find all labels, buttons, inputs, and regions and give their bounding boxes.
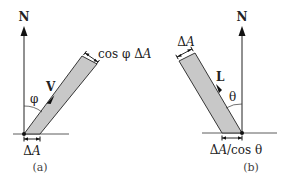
caption-b: (b) [243, 161, 259, 174]
base-width-marker-b [222, 136, 242, 141]
base-width-label-a: ΔA [23, 144, 41, 158]
angle-arc-a [24, 106, 42, 112]
angle-label-theta: θ [229, 90, 236, 104]
panel-a: N φ V ΔA cos φ ΔA (a) [13, 10, 152, 174]
origin-dot-b [240, 131, 244, 135]
perp-width-label-a: cos φ ΔA [98, 47, 152, 61]
normal-label-b: N [237, 10, 248, 24]
angle-arc-b [226, 104, 242, 108]
origin-dot-a [22, 132, 26, 136]
vector-label-l: L [216, 70, 225, 84]
vector-label-v: V [45, 80, 56, 94]
panel-b: N θ L ΔA ΔA/cos θ (b) [176, 10, 277, 174]
angle-label-phi: φ [30, 92, 38, 106]
projected-area-diagram: N φ V ΔA cos φ ΔA (a) [0, 0, 284, 185]
base-width-label-b: ΔA/cos θ [210, 143, 263, 157]
caption-a: (a) [32, 161, 47, 174]
normal-label-a: N [19, 10, 30, 24]
base-width-marker-a [24, 137, 40, 142]
normal-arrowhead-b [239, 26, 246, 36]
perp-width-label-b: ΔA [177, 35, 195, 49]
normal-arrowhead-a [21, 26, 28, 36]
